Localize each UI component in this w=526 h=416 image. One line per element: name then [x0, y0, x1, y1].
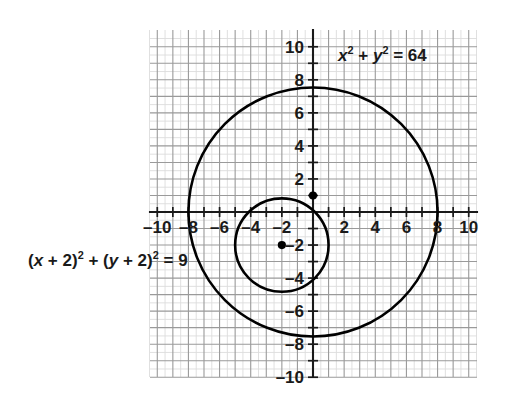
inner-eq-value: 9	[178, 251, 187, 270]
outer-eq-plus: +	[354, 46, 373, 65]
x-tick-label: –8	[179, 218, 198, 237]
x-tick-label: –2	[272, 218, 291, 237]
x-tick-label: –6	[210, 218, 229, 237]
y-tick-label: –8	[285, 335, 304, 354]
inner-eq-variable-y: y	[109, 251, 118, 270]
x-axis-tick-labels: –10–8–6–4–2246810	[143, 218, 478, 237]
outer-eq-value: 64	[408, 46, 427, 65]
y-tick-label: 8	[295, 71, 304, 90]
y-tick-label: –2	[285, 236, 304, 255]
outer-eq-equals: =	[388, 46, 407, 65]
x-tick-label: –4	[241, 218, 260, 237]
inner-circle-equation-label: (x + 2)2 + (y + 2)2 = 9	[28, 252, 188, 269]
circles-intersection-point	[309, 191, 317, 199]
y-tick-label: 2	[295, 170, 304, 189]
inner-eq-addend-2: + 2)	[118, 251, 153, 270]
y-tick-label: –6	[285, 302, 304, 321]
x-tick-label: –10	[143, 218, 171, 237]
inner-eq-variable-x: x	[34, 251, 43, 270]
x-tick-label: 10	[459, 218, 478, 237]
x-tick-label: 8	[433, 218, 442, 237]
y-tick-label: 6	[295, 104, 304, 123]
graph-canvas: –10–8–6–4–2246810 108642–2–4–6–8–10	[0, 0, 526, 416]
x-tick-label: 4	[371, 218, 381, 237]
inner-eq-addend-1: + 2)	[43, 251, 78, 270]
y-tick-label: 10	[285, 38, 304, 57]
inner-eq-plus: +	[84, 251, 103, 270]
x-tick-label: 6	[402, 218, 411, 237]
outer-eq-variable-y: y	[373, 46, 382, 65]
y-tick-label: –10	[276, 368, 304, 387]
x-tick-label: 2	[339, 218, 348, 237]
inner-eq-equals: =	[159, 251, 178, 270]
y-tick-label: 4	[295, 137, 305, 156]
y-tick-label: –4	[285, 269, 304, 288]
coordinate-graph-figure: –10–8–6–4–2246810 108642–2–4–6–8–10 x2 +…	[0, 0, 526, 416]
outer-circle-equation-label: x2 + y2 = 64	[338, 47, 427, 64]
